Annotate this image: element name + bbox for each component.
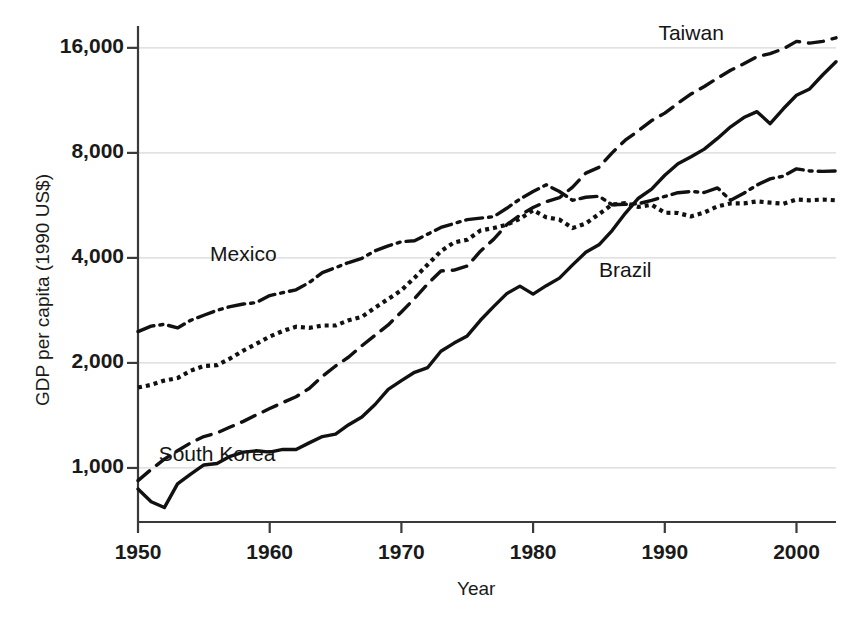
series-line-brazil (138, 200, 836, 388)
chart-series-lines (138, 38, 836, 508)
chart-plot-area (0, 0, 860, 621)
x-tick-label-1960: 1960 (220, 540, 320, 564)
x-tick-label-2000: 2000 (746, 540, 846, 564)
x-tick-label-1990: 1990 (615, 540, 715, 564)
series-label-brazil: Brazil (599, 258, 652, 282)
x-tick-label-1970: 1970 (351, 540, 451, 564)
chart-figure: 16,000 8,000 4,000 2,000 1,000 1950 1960… (0, 0, 860, 621)
x-axis-title: Year (457, 578, 495, 600)
y-tick-label-1000: 1,000 (8, 454, 124, 478)
y-axis-title: GDP per capita (1990 US$) (32, 174, 54, 406)
series-label-taiwan: Taiwan (658, 21, 723, 45)
x-tick-label-1950: 1950 (88, 540, 188, 564)
series-label-mexico: Mexico (210, 242, 277, 266)
y-tick-label-2000: 2,000 (8, 349, 124, 373)
y-tick-label-4000: 4,000 (8, 244, 124, 268)
series-label-south-korea: South Korea (159, 442, 276, 466)
x-tick-label-1980: 1980 (483, 540, 583, 564)
y-tick-label-16000: 16,000 (8, 34, 124, 58)
y-tick-label-8000: 8,000 (8, 139, 124, 163)
series-line-south-korea (138, 62, 836, 508)
